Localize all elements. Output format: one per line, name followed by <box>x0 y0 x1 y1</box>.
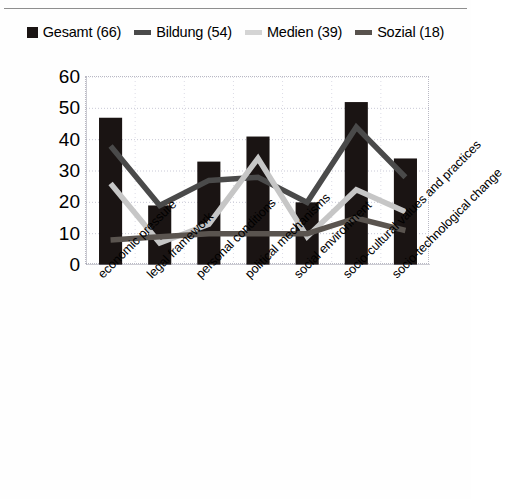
legend-item-medien: Medien (39) <box>245 25 342 40</box>
legend-swatch-icon-medien <box>245 30 262 35</box>
legend-item-gesamt: Gesamt (66) <box>27 25 121 40</box>
header-divider <box>4 8 467 9</box>
legend-swatch-icon-bildung <box>134 30 151 35</box>
legend-label-sozial: Sozial (18) <box>377 25 444 40</box>
y-axis: 0102030405060 <box>44 76 80 264</box>
legend-label-bildung: Bildung (54) <box>156 25 232 40</box>
y-tick-label-60: 60 <box>59 67 80 86</box>
y-tick-label-20: 20 <box>59 192 80 211</box>
y-tick-label-30: 30 <box>59 161 80 180</box>
legend-swatch-icon-sozial <box>355 30 372 35</box>
y-tick-label-40: 40 <box>59 129 80 148</box>
legend-item-bildung: Bildung (54) <box>134 25 232 40</box>
y-tick-label-50: 50 <box>59 98 80 117</box>
legend-item-sozial: Sozial (18) <box>355 25 444 40</box>
x-axis: economic pressurelegal frameworkpersonal… <box>0 264 471 484</box>
y-tick-label-10: 10 <box>59 223 80 242</box>
chart-legend: Gesamt (66) Bildung (54) Medien (39) Soz… <box>0 25 471 40</box>
legend-label-medien: Medien (39) <box>267 25 342 40</box>
legend-label-gesamt: Gesamt (66) <box>43 25 121 40</box>
legend-swatch-icon-gesamt <box>27 27 38 38</box>
